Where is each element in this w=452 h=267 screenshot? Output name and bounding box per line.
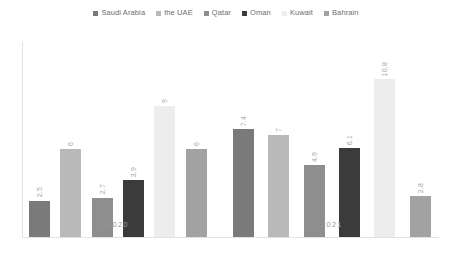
legend-label: Bahrain bbox=[332, 9, 359, 17]
bar-slot-qatar-2020[interactable]: 2.7 bbox=[92, 56, 113, 237]
bar-group-bars: 2.5 6 2.7 3.9 9 6 bbox=[24, 56, 212, 237]
bar-value-label: 7 bbox=[275, 128, 282, 132]
bar-slot-kuwait-2021[interactable]: 10.8 bbox=[374, 56, 395, 237]
legend-label: Kuwait bbox=[290, 9, 313, 17]
legend-swatch-icon bbox=[204, 11, 209, 16]
legend-label: Oman bbox=[250, 9, 271, 17]
category-axis-line bbox=[22, 237, 439, 238]
chart-legend: Saudi Arabia the UAE Qatar Oman Kuwait B… bbox=[0, 6, 452, 20]
bar-value-label: 2.7 bbox=[99, 184, 106, 194]
legend-swatch-icon bbox=[156, 11, 161, 16]
chart-plot-area: 2.5 6 2.7 3.9 9 6 20 bbox=[0, 26, 452, 267]
bar-slot-oman-2021[interactable]: 6.1 bbox=[339, 56, 360, 237]
bar-slot-the-uae-2021[interactable]: 7 bbox=[268, 56, 289, 237]
bar-value-label: 2.8 bbox=[417, 183, 424, 193]
bar-slot-kuwait-2020[interactable]: 9 bbox=[154, 56, 175, 237]
legend-label: the UAE bbox=[164, 9, 193, 17]
legend-label: Qatar bbox=[212, 9, 231, 17]
bar-value-label: 6 bbox=[193, 142, 200, 146]
bar-saudi-arabia-2020[interactable] bbox=[29, 201, 50, 237]
legend-swatch-icon bbox=[282, 11, 287, 16]
bar-slot-the-uae-2020[interactable]: 6 bbox=[60, 56, 81, 237]
axis-label-2020: 2020 bbox=[24, 220, 212, 229]
bar-value-label: 4.9 bbox=[311, 152, 318, 162]
bar-value-label: 10.8 bbox=[381, 62, 388, 76]
legend-item-oman[interactable]: Oman bbox=[242, 9, 271, 17]
bar-kuwait-2020[interactable] bbox=[154, 106, 175, 237]
value-axis-line bbox=[22, 42, 23, 238]
bar-group-2021: 7.4 7 4.9 6.1 10.8 2.8 bbox=[226, 56, 438, 237]
bar-slot-bahrain-2020[interactable]: 6 bbox=[186, 56, 207, 237]
legend-item-qatar[interactable]: Qatar bbox=[204, 9, 231, 17]
bar-value-label: 2.5 bbox=[36, 187, 43, 197]
bar-value-label: 9 bbox=[161, 99, 168, 103]
bar-slot-saudi-arabia-2021[interactable]: 7.4 bbox=[233, 56, 254, 237]
bar-bahrain-2021[interactable] bbox=[410, 196, 431, 237]
bar-kuwait-2021[interactable] bbox=[374, 79, 395, 237]
bar-value-label: 3.9 bbox=[130, 167, 137, 177]
bar-slot-qatar-2021[interactable]: 4.9 bbox=[304, 56, 325, 237]
bar-qatar-2020[interactable] bbox=[92, 198, 113, 237]
bar-value-label: 6.1 bbox=[346, 135, 353, 145]
legend-swatch-icon bbox=[242, 11, 247, 16]
bar-group-2020: 2.5 6 2.7 3.9 9 6 20 bbox=[24, 56, 212, 237]
bar-slot-saudi-arabia-2020[interactable]: 2.5 bbox=[29, 56, 50, 237]
bar-value-label: 7.4 bbox=[240, 116, 247, 126]
legend-item-kuwait[interactable]: Kuwait bbox=[282, 9, 313, 17]
legend-item-bahrain[interactable]: Bahrain bbox=[324, 9, 359, 17]
axis-label-2021: 2021 bbox=[226, 220, 438, 229]
bar-slot-bahrain-2021[interactable]: 2.8 bbox=[410, 56, 431, 237]
legend-label: Saudi Arabia bbox=[101, 9, 145, 17]
legend-swatch-icon bbox=[93, 11, 98, 16]
bar-value-label: 6 bbox=[67, 142, 74, 146]
legend-swatch-icon bbox=[324, 11, 329, 16]
bar-slot-oman-2020[interactable]: 3.9 bbox=[123, 56, 144, 237]
legend-item-saudi-arabia[interactable]: Saudi Arabia bbox=[93, 9, 145, 17]
bar-group-bars: 7.4 7 4.9 6.1 10.8 2.8 bbox=[226, 56, 438, 237]
legend-item-the-uae[interactable]: the UAE bbox=[156, 9, 193, 17]
